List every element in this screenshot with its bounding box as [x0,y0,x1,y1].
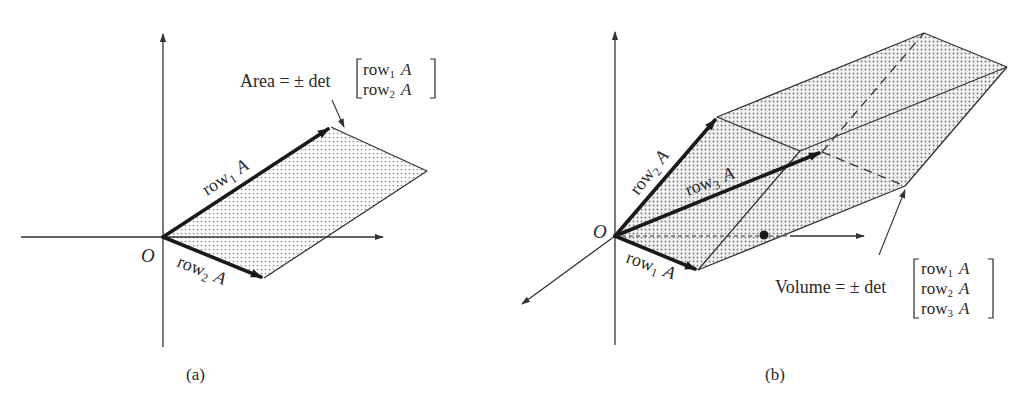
svg-text:row1A: row1A [363,60,412,80]
svg-text:Volume = ± det: Volume = ± det [775,277,886,297]
panel-a: O row1A row2A Area = ± det row1A row2A (… [21,34,435,384]
z-axis-b [522,236,615,304]
area-formula: Area = ± det row1A row2A [240,59,435,100]
volume-leader-line [879,190,905,255]
caption-a: (a) [186,365,205,384]
panel-b: O row2A row3A row1A Volume = ± det row1A… [522,32,1007,384]
svg-text:row3A: row3A [921,299,970,319]
matrix-bracket-left-b [914,259,919,318]
determinant-geometry-figure: O row1A row2A Area = ± det row1A row2A (… [0,0,1022,395]
caption-b: (b) [765,365,785,384]
area-leader-line [332,100,344,127]
svg-text:Area = ± det: Area = ± det [240,71,331,91]
matrix-bracket-left [357,59,362,98]
svg-text:row1A: row1A [921,259,970,279]
x-axis-pierce-point [760,231,769,240]
matrix-bracket-right-b [988,259,993,318]
svg-text:row2A: row2A [921,279,970,299]
svg-text:row2A: row2A [363,80,412,100]
parallelepiped-volume [615,33,1007,270]
origin-label-b: O [593,221,607,242]
volume-formula: Volume = ± det row1A row2A row3A [775,259,993,319]
matrix-bracket-right [430,59,435,98]
origin-label-a: O [141,245,155,266]
